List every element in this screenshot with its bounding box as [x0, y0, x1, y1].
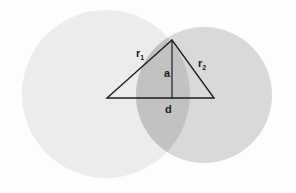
- label-r2-subscript: 2: [202, 64, 206, 71]
- diagram-canvas: r1 r2 a d: [0, 0, 296, 193]
- label-r1-subscript: 1: [140, 54, 144, 61]
- label-d: d: [165, 103, 172, 115]
- circle-intersection-diagram: r1 r2 a d: [0, 0, 296, 193]
- label-a: a: [164, 67, 171, 79]
